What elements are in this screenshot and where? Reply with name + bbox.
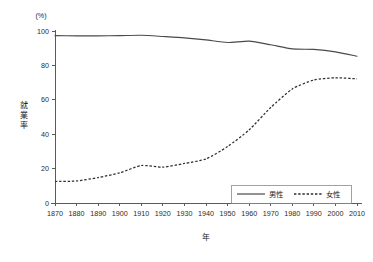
- legend-label-2: 女性: [326, 190, 340, 199]
- legend-label-1: 男性: [269, 190, 283, 199]
- x-tick-label: 1890: [90, 209, 106, 218]
- y-tick-label: 40: [41, 130, 49, 139]
- y-tick-label: 100: [37, 27, 49, 36]
- chart-legend: 男性女性: [231, 185, 351, 203]
- y-axis-unit-label: (%): [35, 11, 46, 20]
- y-axis-title-char: 業: [20, 110, 28, 120]
- x-axis-title: 年: [202, 232, 210, 242]
- y-axis-title-char: 率: [20, 120, 28, 130]
- x-tick-label: 1910: [133, 209, 149, 218]
- x-tick-label: 1920: [155, 209, 171, 218]
- x-tick-label: 1870: [47, 209, 63, 218]
- series-line-1: [55, 35, 357, 56]
- x-tick-label: 1970: [263, 209, 279, 218]
- x-tick-label: 1950: [220, 209, 236, 218]
- x-tick-label: 1990: [306, 209, 322, 218]
- y-axis-ticks: 020406080100: [37, 27, 55, 208]
- y-tick-label: 20: [41, 164, 49, 173]
- x-tick-label: 2010: [349, 209, 365, 218]
- series-line-2: [55, 78, 357, 182]
- x-tick-label: 1980: [284, 209, 300, 218]
- x-tick-label: 1940: [198, 209, 214, 218]
- x-axis-ticks: 1870188018901900191019201930194019501960…: [47, 203, 365, 218]
- x-tick-label: 1880: [69, 209, 85, 218]
- x-tick-label: 1960: [241, 209, 257, 218]
- x-tick-label: 2000: [327, 209, 343, 218]
- chart-series: [55, 35, 357, 181]
- x-tick-label: 1900: [112, 209, 128, 218]
- employment-rate-chart: 020406080100 187018801890190019101920193…: [0, 0, 373, 262]
- chart-canvas: 020406080100 187018801890190019101920193…: [0, 0, 373, 262]
- y-tick-label: 60: [41, 95, 49, 104]
- y-axis-title-char: 就: [20, 100, 28, 110]
- y-axis-title: 就業率: [20, 100, 28, 130]
- y-tick-label: 0: [45, 199, 49, 208]
- y-tick-label: 80: [41, 61, 49, 70]
- x-tick-label: 1930: [176, 209, 192, 218]
